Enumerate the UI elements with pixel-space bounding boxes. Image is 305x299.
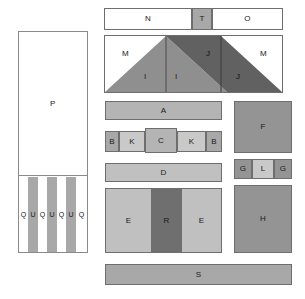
center-block-d-2-0[interactable]: D <box>105 163 222 182</box>
gable-label-i-4: I <box>175 73 177 81</box>
right-block-g-3-label: G <box>280 165 287 173</box>
left-panel-stripe-u-5[interactable]: U <box>66 177 76 252</box>
left-panel-stripe-u-1[interactable]: U <box>28 177 38 252</box>
gable-label-j-2: J <box>206 50 210 58</box>
gable-label-i-3: I <box>144 73 146 81</box>
top-bar-segment-o[interactable]: O <box>212 8 283 30</box>
bottom-block-s-label: S <box>196 271 202 279</box>
gable-label-j-5: J <box>236 73 240 81</box>
center-block-k-1-1-label: K <box>129 138 135 146</box>
center-block-b-1-0[interactable]: B <box>105 131 119 152</box>
right-block-g-1-label: G <box>240 165 247 173</box>
stripe-label: Q <box>79 211 84 218</box>
top-bar-segment-t-label: T <box>199 15 204 23</box>
center-block-a-0-0[interactable]: A <box>105 101 222 120</box>
right-block-h-4-label: H <box>260 215 266 223</box>
right-block-l-2[interactable]: L <box>252 159 274 179</box>
center-block-b-1-4-label: B <box>211 138 217 146</box>
left-panel-stripe-u-3[interactable]: U <box>47 177 57 252</box>
center-block-k-1-1[interactable]: K <box>119 131 145 152</box>
center-block-k-1-3-label: K <box>189 138 195 146</box>
gable-label-m-1: M <box>260 50 267 58</box>
center-block-e-3-2[interactable]: E <box>181 188 222 253</box>
center-block-r-3-1[interactable]: R <box>152 188 181 253</box>
center-block-e-3-2-label: E <box>199 217 205 225</box>
top-bar-segment-n-label: N <box>145 15 151 23</box>
right-block-l-2-label: L <box>261 165 266 173</box>
right-block-g-3[interactable]: G <box>274 159 292 179</box>
stripe-label: U <box>30 211 35 218</box>
gable-svg <box>104 35 283 93</box>
right-block-f-0[interactable]: F <box>234 101 292 153</box>
stripe-label: Q <box>21 211 26 218</box>
top-bar-segment-o-label: O <box>244 15 251 23</box>
stripe-label: U <box>68 211 73 218</box>
center-block-b-1-4[interactable]: B <box>206 131 222 152</box>
center-block-e-3-0[interactable]: E <box>105 188 152 253</box>
center-block-c-1-2-label: C <box>158 137 164 145</box>
stripe-label: U <box>49 211 54 218</box>
stripe-label: Q <box>59 211 64 218</box>
left-panel-label-p: P <box>50 100 55 108</box>
center-block-d-2-0-label: D <box>160 169 166 177</box>
top-bar-segment-t[interactable]: T <box>192 8 212 30</box>
center-block-b-1-0-label: B <box>109 138 115 146</box>
center-block-e-3-0-label: E <box>126 217 132 225</box>
gable-label-m-0: M <box>122 50 129 58</box>
left-panel-stripe-q-0[interactable]: Q <box>19 177 28 252</box>
gable-frame <box>104 35 283 93</box>
left-panel-stripe-q-4[interactable]: Q <box>57 177 66 252</box>
right-block-f-0-label: F <box>260 123 265 131</box>
facade-schematic: P QUQUQUQ NTO MMJIIJ ABKCKBDERE FGLGH S <box>0 0 305 299</box>
center-block-k-1-3[interactable]: K <box>177 131 206 152</box>
top-bar-segment-n[interactable]: N <box>104 8 192 30</box>
left-panel-stripe-q-6[interactable]: Q <box>76 177 87 252</box>
bottom-block-s[interactable]: S <box>105 264 292 285</box>
right-block-g-1[interactable]: G <box>234 159 252 179</box>
left-panel-stripe-q-2[interactable]: Q <box>38 177 47 252</box>
center-block-a-0-0-label: A <box>161 107 167 115</box>
stripe-label: Q <box>40 211 45 218</box>
center-block-r-3-1-label: R <box>163 217 169 225</box>
center-block-c-1-2[interactable]: C <box>145 128 177 153</box>
right-block-h-4[interactable]: H <box>234 185 292 253</box>
